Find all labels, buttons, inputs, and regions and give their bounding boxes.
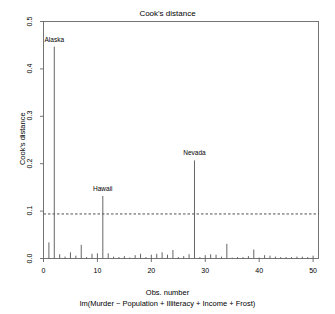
y-tick-label: 0.5: [26, 10, 33, 32]
y-tick-label: 0.1: [26, 200, 33, 222]
y-axis-title: Cook's distance: [19, 79, 27, 199]
x-axis-subtitle: lm(Murder ~ Population + Illiteracy + In…: [0, 300, 335, 308]
x-tick-label: 0: [33, 267, 55, 274]
y-axis-ticks: [40, 22, 44, 259]
point-label-nevada: Nevada: [172, 150, 216, 157]
cooks-distance-plot: Cook's distance Cook's distance Obs. num…: [0, 0, 335, 314]
y-tick-label: 0.2: [26, 152, 33, 174]
y-tick-label: 0.3: [26, 105, 33, 127]
x-axis-title: Obs. number: [0, 289, 335, 297]
point-label-hawaii: Hawaii: [81, 186, 125, 193]
x-tick-label: 10: [86, 267, 108, 274]
plot-frame: [44, 22, 319, 259]
y-tick-label: 0.4: [26, 57, 33, 79]
x-tick-label: 20: [140, 267, 162, 274]
y-tick-label: 0.0: [26, 247, 33, 269]
x-tick-label: 50: [302, 267, 324, 274]
x-tick-label: 40: [248, 267, 270, 274]
x-axis-ticks: [44, 259, 314, 263]
point-label-alaska: Alaska: [32, 37, 76, 44]
x-tick-label: 30: [194, 267, 216, 274]
